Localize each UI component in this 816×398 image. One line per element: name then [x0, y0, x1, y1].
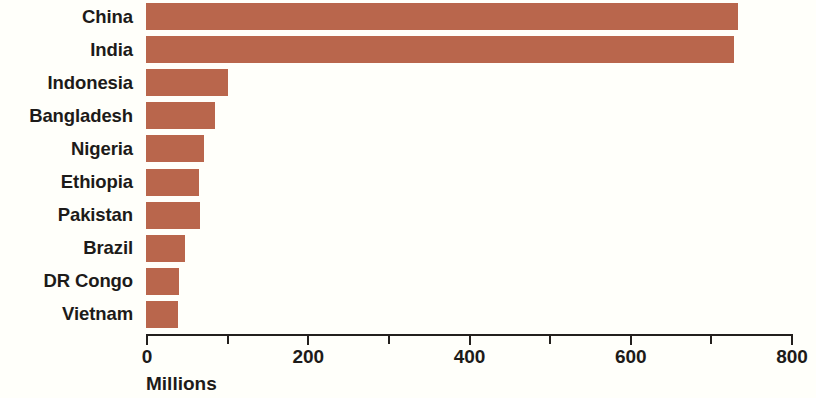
x-axis-tick-label: 600 — [596, 347, 666, 366]
x-axis-tick — [549, 334, 551, 344]
x-axis-tick — [307, 334, 309, 345]
category-label: Nigeria — [0, 140, 133, 159]
bar — [146, 102, 215, 129]
bar — [146, 69, 228, 96]
bar — [146, 202, 200, 229]
category-label: Pakistan — [0, 206, 133, 225]
category-label: Vietnam — [0, 305, 133, 324]
category-label: India — [0, 41, 133, 60]
bar-chart: ChinaIndiaIndonesiaBangladeshNigeriaEthi… — [0, 0, 816, 398]
category-label: Ethiopia — [0, 173, 133, 192]
category-label: China — [0, 8, 133, 27]
x-axis-tick — [630, 334, 632, 345]
x-axis-tick-label: 800 — [757, 347, 816, 366]
category-label: DR Congo — [0, 272, 133, 291]
category-label: Bangladesh — [0, 107, 133, 126]
x-axis-left-cap — [146, 334, 148, 345]
x-axis-tick — [710, 334, 712, 344]
x-axis-tick-label: 0 — [112, 347, 182, 366]
x-axis-tick — [469, 334, 471, 345]
bar — [146, 135, 204, 162]
x-axis-tick-label: 400 — [435, 347, 505, 366]
x-axis-right-cap — [791, 334, 793, 345]
bar — [146, 268, 179, 295]
bar — [146, 3, 738, 30]
x-axis-title: Millions — [146, 374, 217, 393]
bar — [146, 36, 734, 63]
x-axis-tick — [388, 334, 390, 344]
category-label: Indonesia — [0, 74, 133, 93]
category-label: Brazil — [0, 239, 133, 258]
x-axis-tick-label: 200 — [273, 347, 343, 366]
bar — [146, 235, 185, 262]
x-axis-tick — [227, 334, 229, 344]
bar — [146, 169, 199, 196]
bar — [146, 301, 178, 328]
